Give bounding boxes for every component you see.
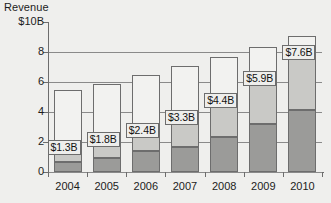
y-axis-title: Revenue <box>4 1 49 13</box>
bar-2009[interactable] <box>249 47 277 172</box>
bar-segment-middle <box>171 123 199 147</box>
y-tick-10: $10B <box>0 16 44 27</box>
bar-segment-middle <box>288 58 316 110</box>
x-tickmark <box>87 172 88 177</box>
y-tick-8: 8 <box>0 46 44 57</box>
x-tickmark <box>205 172 206 177</box>
y-tick-label: 6 <box>38 76 44 87</box>
y-tick-label: 0 <box>38 166 44 177</box>
bar-2004[interactable] <box>54 90 82 172</box>
bar-series-group <box>48 22 322 172</box>
value-label-2006: $2.4B <box>126 123 159 138</box>
value-label-2007: $3.3B <box>165 110 198 125</box>
y-tick-6: 6 <box>0 76 44 87</box>
bar-2005[interactable] <box>93 84 121 173</box>
x-axis-label-2007: 2007 <box>163 180 207 192</box>
y-tick-0: 0 <box>0 166 44 177</box>
x-axis-label-2009: 2009 <box>241 180 285 192</box>
bar-segment-lower <box>210 137 238 172</box>
y-tick-label: 4 <box>38 106 44 117</box>
x-tickmark <box>126 172 127 177</box>
x-axis-label-2004: 2004 <box>46 180 90 192</box>
y-tick-label: 2 <box>38 136 44 147</box>
bar-segment-middle <box>210 106 238 137</box>
x-tickmark <box>244 172 245 177</box>
bar-2008[interactable] <box>210 57 238 172</box>
y-tick-4: 4 <box>0 106 44 117</box>
x-tickmark <box>283 172 284 177</box>
y-tick-2: 2 <box>0 136 44 147</box>
bar-segment-lower <box>288 110 316 172</box>
bar-segment-middle <box>132 136 160 151</box>
bar-segment-lower <box>54 162 82 172</box>
bar-segment-middle <box>249 84 277 125</box>
bar-segment-lower <box>171 147 199 173</box>
bar-segment-lower <box>249 124 277 172</box>
x-tickmark <box>165 172 166 177</box>
value-label-2005: $1.8B <box>87 132 120 147</box>
bar-segment-lower <box>132 151 160 172</box>
value-label-2004: $1.3B <box>48 140 81 155</box>
gridline-0 <box>48 172 322 173</box>
y-tick-label: $10B <box>18 16 44 27</box>
value-label-2009: $5.9B <box>243 71 276 86</box>
x-axis-label-2005: 2005 <box>85 180 129 192</box>
x-axis-label-2008: 2008 <box>202 180 246 192</box>
value-label-2010: $7.6B <box>282 45 315 60</box>
x-axis-label-2010: 2010 <box>280 180 324 192</box>
revenue-stacked-bar-chart: Revenue $10B86420 2004200520062007200820… <box>0 0 331 203</box>
value-label-2008: $4.4B <box>204 93 237 108</box>
x-tickmark <box>48 172 49 177</box>
bar-segment-lower <box>93 158 121 172</box>
x-tickmark <box>322 172 323 177</box>
y-tick-label: 8 <box>38 46 44 57</box>
x-axis-label-2006: 2006 <box>124 180 168 192</box>
